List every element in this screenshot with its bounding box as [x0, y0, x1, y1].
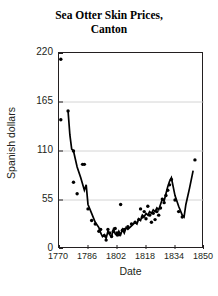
plot-svg	[59, 53, 204, 249]
data-point	[99, 228, 102, 231]
data-point	[162, 201, 165, 204]
data-point	[133, 221, 136, 224]
data-point	[146, 205, 149, 208]
data-point	[90, 219, 93, 222]
data-point	[59, 118, 62, 121]
data-point	[157, 213, 160, 216]
data-point	[141, 215, 144, 218]
data-point	[104, 238, 107, 241]
data-point	[152, 212, 155, 215]
data-point	[193, 158, 196, 161]
x-axis-label: Date	[58, 265, 203, 277]
y-tick-label-220: 220	[5, 47, 53, 57]
x-tick-label-1802: 1802	[101, 251, 131, 261]
gridlines	[59, 102, 204, 200]
data-point	[103, 234, 106, 237]
data-point	[126, 225, 129, 228]
data-point	[153, 218, 156, 221]
x-tick-label-1770: 1770	[43, 251, 73, 261]
data-point	[148, 213, 151, 216]
data-point	[168, 183, 171, 186]
data-point	[159, 206, 162, 209]
data-point	[164, 194, 167, 197]
x-tick-label-1834: 1834	[159, 251, 189, 261]
data-point	[139, 207, 142, 210]
price-scatter-points	[59, 58, 197, 242]
data-point	[142, 210, 145, 213]
data-point	[72, 180, 75, 183]
data-point	[155, 210, 158, 213]
data-point	[170, 178, 173, 181]
data-point	[181, 215, 184, 218]
price-trend-line	[68, 111, 193, 238]
data-point	[94, 222, 97, 225]
x-tick-label-1818: 1818	[130, 251, 160, 261]
data-point	[108, 231, 111, 234]
data-point	[173, 198, 176, 201]
data-point	[113, 227, 116, 230]
data-point	[130, 222, 133, 225]
data-point	[166, 189, 169, 192]
chart-figure: Sea Otter Skin Prices, Canton 0551101652…	[0, 0, 218, 296]
x-tick-label-1786: 1786	[72, 251, 102, 261]
x-tick-label-1850: 1850	[188, 251, 218, 261]
plot-area	[58, 52, 203, 248]
data-point	[106, 228, 109, 231]
data-point	[72, 149, 75, 152]
data-point	[86, 207, 89, 210]
data-point	[119, 203, 122, 206]
data-point	[150, 221, 153, 224]
data-point	[110, 235, 113, 238]
data-point	[117, 233, 120, 236]
data-point	[161, 197, 164, 200]
data-point	[75, 192, 78, 195]
data-point	[137, 218, 140, 221]
data-point	[59, 58, 62, 61]
data-point	[123, 228, 126, 231]
chart-title-line-1: Sea Otter Skin Prices,	[55, 9, 163, 21]
data-point	[177, 210, 180, 213]
y-axis-label: Spanish dollars	[5, 88, 17, 198]
data-point	[66, 109, 69, 112]
data-point	[144, 217, 147, 220]
data-point	[83, 163, 86, 166]
